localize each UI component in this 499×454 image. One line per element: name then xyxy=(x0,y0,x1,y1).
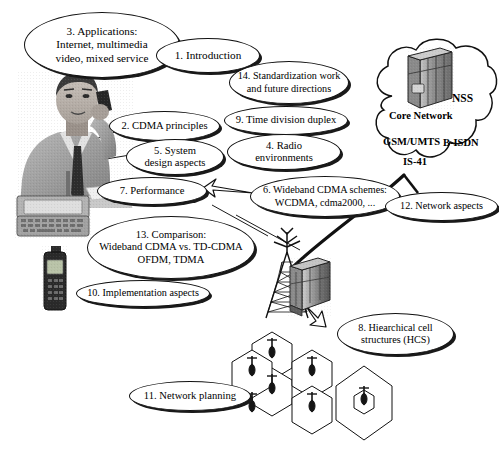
cloud-label-nss: NSS xyxy=(452,92,473,104)
topic-line: video, mixed service xyxy=(31,52,173,65)
topic-line: Wideband CDMA vs. TD-CDMA xyxy=(94,241,248,254)
topic-network-planning[interactable]: 11. Network planning xyxy=(129,381,251,411)
server-rack-icon xyxy=(406,46,454,110)
topic-line: design aspects xyxy=(133,157,217,170)
cloud-label-is-41: IS-41 xyxy=(403,156,427,167)
topic-line: 5. System xyxy=(133,145,217,158)
topic-applications[interactable]: 3. Applications:Internet, multimediavide… xyxy=(24,12,180,78)
topic-line: OFDM, TDMA xyxy=(94,254,248,267)
topic-line: 11. Network planning xyxy=(136,390,244,403)
topic-cdma-principles[interactable]: 2. CDMA principles xyxy=(109,111,220,141)
topic-standardization[interactable]: 14. Standardization workand future direc… xyxy=(229,61,349,104)
topic-comparison[interactable]: 13. Comparison:Wideband CDMA vs. TD-CDMA… xyxy=(87,216,255,279)
topic-time-division-duplex[interactable]: 9. Time division duplex xyxy=(224,106,348,135)
topic-line: 4. Radio xyxy=(234,140,334,153)
cloud-label-gsm-umts: GSM/UMTS xyxy=(383,136,440,147)
topic-line: 3. Applications: xyxy=(31,25,173,38)
topic-line: 7. Performance xyxy=(104,185,200,198)
topic-line: 8. Hiearchical cell xyxy=(344,322,447,334)
figure-title: WCDMA / wideband CDMA book chapter overv… xyxy=(0,0,1,1)
topic-line: structures (HCS) xyxy=(344,334,447,346)
topic-line: environments xyxy=(234,152,334,165)
topic-line: 6. Wideband CDMA schemes: xyxy=(257,184,393,196)
cloud-label-b-isdn: B-ISDN xyxy=(443,137,479,148)
topic-line: 1. Introduction xyxy=(163,49,253,62)
photo-mobile-handset xyxy=(42,244,68,312)
cloud-label-core-network: Core Network xyxy=(389,110,453,121)
topic-line: 12. Network aspects xyxy=(392,200,491,212)
topic-system-design-aspects[interactable]: 5. Systemdesign aspects xyxy=(126,139,224,175)
topic-line: and future directions xyxy=(236,83,342,95)
topic-hierarchical-cell-structures[interactable]: 8. Hiearchical cellstructures (HCS) xyxy=(337,313,454,355)
topic-network-aspects[interactable]: 12. Network aspects xyxy=(385,192,498,221)
topic-performance[interactable]: 7. Performance xyxy=(97,177,207,205)
topic-radio-environments[interactable]: 4. Radioenvironments xyxy=(227,134,341,170)
topic-wideband-cdma-schemes[interactable]: 6. Wideband CDMA schemes:WCDMA, cdma2000… xyxy=(250,176,400,217)
topic-line: WCDMA, cdma2000, ... xyxy=(257,197,393,209)
topic-implementation-aspects[interactable]: 10. Implementation aspects xyxy=(76,280,210,307)
topic-line: 13. Comparison: xyxy=(94,229,248,242)
topic-line: 10. Implementation aspects xyxy=(83,287,203,299)
topic-line: 2. CDMA principles xyxy=(116,120,213,133)
figure-canvas: NSS Core Network GSM/UMTS B-ISDN IS-41 3… xyxy=(0,0,499,454)
topic-line: 9. Time division duplex xyxy=(231,114,341,127)
equipment-cabinet xyxy=(288,256,332,318)
connector-cloud-to-network-aspects xyxy=(404,175,418,193)
topic-line: Internet, multimedia xyxy=(31,38,173,51)
topic-line: 14. Standardization work xyxy=(236,70,342,82)
